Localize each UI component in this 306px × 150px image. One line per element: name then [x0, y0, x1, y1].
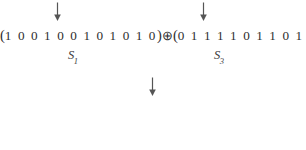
- offspring-arrow-band: [0, 75, 306, 101]
- crossover-point-arrow-left: [52, 2, 63, 22]
- crossover-point-arrow-right: [198, 2, 209, 22]
- parent-3-sequence: (0 1 1 1 1 0 1 1 0 1 0 1): [173, 28, 306, 43]
- parents-label-line: S1 S3: [0, 48, 306, 68]
- parent-3-label-subscript: 3: [220, 56, 224, 66]
- parents-arrow-band: [0, 0, 306, 26]
- parent-3-label: S3: [214, 48, 225, 65]
- crossover-figure: (1 0 0 1 0 0 1 0 1 0 1 0)⊕(0 1 1 1 1 0 1…: [0, 0, 306, 150]
- offspring-row: (1 0 0 1 1 0 1 1 0 1 0 1)⊕(0 1 1 1 0 0 1…: [0, 75, 306, 150]
- parent-3-bits: 0 1 1 1 1 0 1 1 0 1 0 1: [178, 28, 306, 43]
- parent-1-bits: 1 0 0 1 0 0 1 0 1 0 1 0: [5, 28, 157, 43]
- parents-expression: (1 0 0 1 0 0 1 0 1 0 1 0)⊕(0 1 1 1 1 0 1…: [0, 27, 306, 44]
- parent-1-label-subscript: 1: [74, 56, 78, 66]
- crossover-point-arrow-center: [147, 77, 158, 97]
- parent-1-label: S1: [68, 48, 79, 65]
- parent-1-sequence: (1 0 0 1 0 0 1 0 1 0 1 0): [0, 28, 162, 43]
- xor-operator-icon: ⊕: [162, 28, 173, 43]
- parents-row: (1 0 0 1 0 0 1 0 1 0 1 0)⊕(0 1 1 1 1 0 1…: [0, 0, 306, 75]
